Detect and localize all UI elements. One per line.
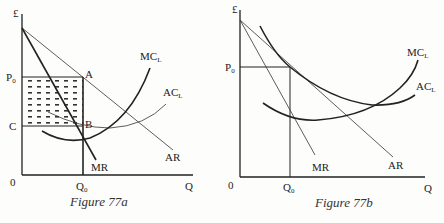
- y-axis-label: £: [13, 7, 19, 19]
- p0-label: P0: [225, 61, 235, 75]
- p0-label: P0: [6, 71, 16, 85]
- point-a-label: A: [85, 68, 93, 80]
- diagram-canvas: £ 0 Q Q0 P0 C A B MCL ACL AR MR Figure 7…: [0, 0, 444, 223]
- point-b-label: B: [85, 118, 92, 130]
- x-axis-label: Q: [185, 180, 193, 192]
- y-axis-label: £: [232, 3, 238, 15]
- figure-77a: £ 0 Q Q0 P0 C A B MCL ACL AR MR Figure 7…: [6, 7, 193, 209]
- mc-label: MCL: [407, 46, 428, 60]
- mc-label: MCL: [140, 50, 161, 64]
- ac-label: ACL: [163, 86, 183, 100]
- figure-caption: Figure 77a: [69, 194, 128, 209]
- x-axis-label: Q: [424, 182, 432, 194]
- mr-label: MR: [312, 161, 330, 173]
- c-label: C: [9, 120, 16, 132]
- q0-label: Q0: [283, 181, 295, 195]
- mr-curve: [240, 20, 315, 155]
- mr-label: MR: [91, 161, 109, 173]
- q0-label: Q0: [76, 180, 88, 194]
- figure-caption: Figure 77b: [314, 195, 373, 210]
- mc-curve: [263, 60, 418, 120]
- figure-77b: £ 0 Q Q0 P0 MCL ACL AR MR Figure 77b: [225, 3, 436, 210]
- ar-label: AR: [165, 151, 181, 163]
- ar-curve: [240, 20, 393, 157]
- ac-curve: [260, 26, 415, 105]
- origin-label: 0: [10, 176, 16, 188]
- ac-label: ACL: [416, 80, 436, 94]
- origin-label: 0: [228, 179, 234, 191]
- ar-label: AR: [388, 159, 404, 171]
